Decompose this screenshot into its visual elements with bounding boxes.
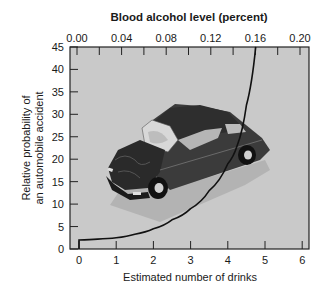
x-tick-label: 1 [113, 254, 119, 266]
x-tick-label: 3 [188, 254, 194, 266]
svg-text:an automobile accident: an automobile accident [33, 91, 45, 204]
y-tick-label: 40 [52, 63, 64, 75]
x-tick-label: 0 [76, 254, 82, 266]
top-tick-label: 0.00 [66, 32, 87, 44]
top-tick-label: 0.20 [289, 32, 310, 44]
x-tick-label: 6 [299, 254, 305, 266]
x-tick-label: 5 [262, 254, 268, 266]
svg-text:Relative probability of: Relative probability of [20, 94, 32, 200]
x-tick-label: 4 [225, 254, 231, 266]
y-tick-label: 0 [58, 243, 64, 255]
chart: Blood alcohol level (percent) 0.000.040.… [0, 0, 332, 299]
y-tick-label: 45 [52, 41, 64, 53]
top-tick-label: 0.16 [245, 32, 266, 44]
top-tick-label: 0.12 [200, 32, 221, 44]
top-axis-title: Blood alcohol level (percent) [110, 11, 267, 23]
y-axis-label: Relative probability of an automobile ac… [20, 91, 45, 204]
y-tick-label: 30 [52, 108, 64, 120]
y-tick-label: 20 [52, 153, 64, 165]
y-tick-label: 15 [52, 176, 64, 188]
y-tick-label: 25 [52, 131, 64, 143]
x-axis-label: Estimated number of drinks [123, 271, 257, 283]
top-tick-label: 0.08 [155, 32, 176, 44]
y-tick-label: 35 [52, 86, 64, 98]
x-tick-label: 2 [150, 254, 156, 266]
top-tick-label: 0.04 [111, 32, 132, 44]
y-tick-label: 5 [58, 221, 64, 233]
y-tick-label: 10 [52, 198, 64, 210]
